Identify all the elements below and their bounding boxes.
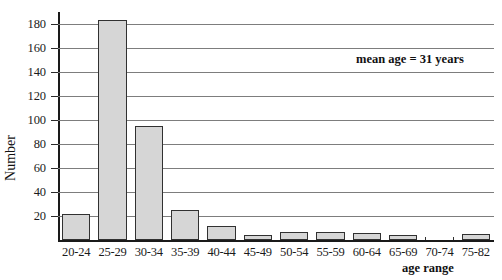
bar-40-44 [207, 226, 235, 240]
y-tick-label: 120 [4, 90, 46, 103]
x-axis-label: age range [402, 261, 454, 276]
bar-35-39 [171, 210, 199, 240]
bar-45-49 [244, 235, 272, 240]
y-tick-label: 180 [4, 18, 46, 31]
x-tick-label: 30-34 [131, 246, 167, 259]
y-tick-mark [51, 168, 58, 169]
x-tick-label: 40-44 [203, 246, 239, 259]
y-tick-label: 20 [4, 210, 46, 223]
bar-50-54 [280, 232, 308, 240]
x-tick-label: 35-39 [167, 246, 203, 259]
x-tick-label: 60-64 [349, 246, 385, 259]
x-tick-label: 45-49 [240, 246, 276, 259]
bar-30-34 [135, 126, 163, 240]
x-tick-label: 70-74 [421, 246, 457, 259]
bar-60-64 [353, 233, 381, 240]
y-tick-mark [51, 144, 58, 145]
x-tick-label: 20-24 [58, 246, 94, 259]
bar-65-69 [389, 235, 417, 240]
histogram-chart: 20406080100120140160180 20-2425-2930-343… [0, 0, 502, 280]
y-tick-label: 160 [4, 42, 46, 55]
y-tick-label: 140 [4, 66, 46, 79]
mean-age-annotation: mean age = 31 years [356, 52, 464, 67]
x-tick-label: 55-59 [312, 246, 348, 259]
x-tick-label: 25-29 [94, 246, 130, 259]
y-tick-mark [51, 120, 58, 121]
bar-20-24 [62, 214, 90, 240]
y-tick-mark [51, 72, 58, 73]
bars-layer [58, 12, 494, 242]
bar-70-74 [425, 237, 453, 240]
x-tick-label: 50-54 [276, 246, 312, 259]
x-tick-label: 65-69 [385, 246, 421, 259]
x-tick-label: 75-82 [458, 246, 494, 259]
bar-75-82 [462, 234, 490, 240]
y-tick-mark [51, 96, 58, 97]
bar-25-29 [98, 20, 126, 240]
y-tick-mark [51, 24, 58, 25]
bar-55-59 [316, 232, 344, 240]
y-tick-mark [51, 48, 58, 49]
y-tick-mark [51, 192, 58, 193]
y-tick-mark [51, 216, 58, 217]
y-axis-label: Number [3, 113, 19, 203]
